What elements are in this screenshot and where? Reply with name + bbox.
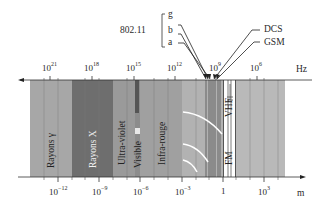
tick-exp: 6 [259,61,262,67]
tick-exp: −6 [142,185,148,191]
bottom-tick-1e-12: 10−12 [49,186,67,197]
top-tick-1e21: 1021 [42,62,57,73]
label-fm: FM [224,151,234,165]
top-tick-1e18: 1018 [84,62,99,73]
label-dcs: DCS [264,24,282,34]
tick-base: 10 [250,63,259,73]
bottom-axis-unit: m [297,188,304,198]
bottom-tick-1e-3: 10−3 [175,186,190,197]
tick-base: 10 [175,187,184,197]
top-tick-1e15: 1015 [126,62,141,73]
tick-base: 10 [258,187,267,197]
tick-exp: 3 [267,185,270,191]
bottom-tick-1e3: 103 [258,186,270,197]
label-x-rays: Rayons X [88,130,98,168]
tick-exp: −9 [101,185,107,191]
label-infrared: Infra-rouge [157,122,167,165]
tick-exp: 15 [135,61,141,67]
bottom-tick-1: 1 [221,186,226,196]
label-gsm: GSM [264,37,285,47]
tick-base: 1 [221,186,226,196]
tick-base: 10 [42,63,51,73]
label-wifi-g: g [168,9,173,19]
label-ultraviolet: Ultra-violet [117,121,127,165]
label-wifi-802-11: 802.11 [120,25,146,35]
tick-exp: −3 [184,185,190,191]
tick-base: 10 [167,63,176,73]
label-visible: Visible [133,141,143,168]
tick-exp: 9 [218,61,221,67]
tick-base: 10 [49,187,58,197]
tick-base: 10 [84,63,93,73]
tick-base: 10 [92,187,101,197]
top-tick-1e12: 1012 [167,62,182,73]
label-vhf: VHF [224,98,234,117]
tick-exp: 21 [51,61,57,67]
tick-exp: −12 [58,185,67,191]
top-tick-1e9: 109 [209,62,221,73]
top-tick-1e6: 106 [250,62,262,73]
tick-exp: 12 [176,61,182,67]
bottom-tick-1e-6: 10−6 [133,186,148,197]
top-axis-unit: Hz [296,64,307,74]
tick-exp: 18 [93,61,99,67]
label-wifi-b: b [168,25,173,35]
bottom-tick-1e-9: 10−9 [92,186,107,197]
tick-base: 10 [133,187,142,197]
tick-base: 10 [126,63,135,73]
tick-base: 10 [209,63,218,73]
label-wifi-a: a [168,37,172,47]
label-gamma-rays: Rayons γ [46,133,56,168]
